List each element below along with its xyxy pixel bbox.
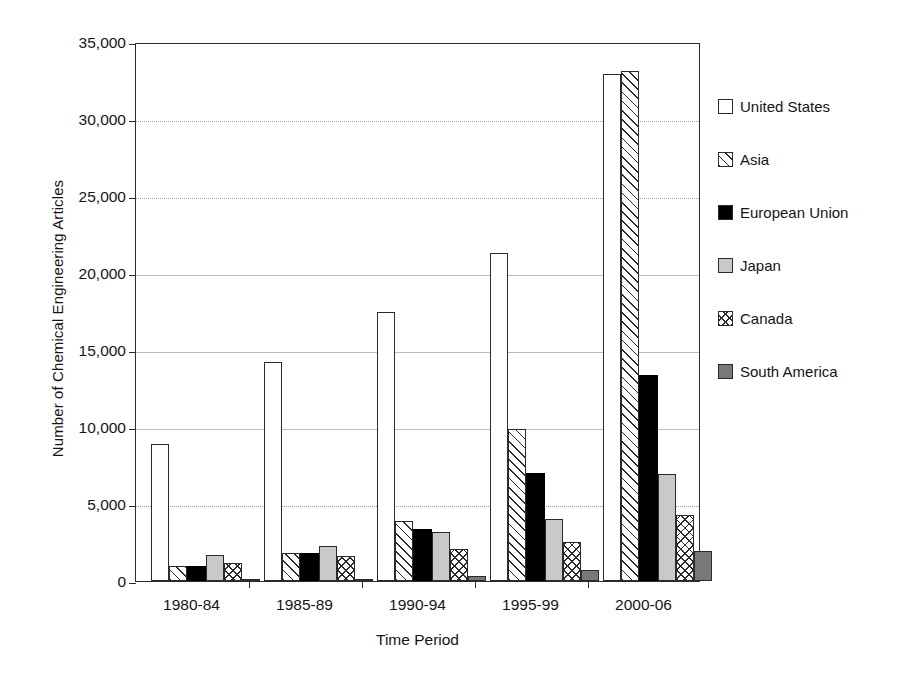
legend-item-european-union: European Union	[718, 204, 893, 221]
x-axis-title: Time Period	[135, 631, 700, 649]
solid-black-swatch	[718, 205, 733, 220]
y-axis-tick-label: 10,000	[48, 419, 126, 437]
bar-south-america-1985-89	[355, 579, 373, 581]
legend-label: South America	[740, 363, 838, 380]
legend-item-united-states: United States	[718, 98, 893, 115]
bar-european-union-1995-99	[526, 473, 544, 581]
bar-canada-2000-06	[676, 515, 694, 581]
bar-japan-1995-99	[545, 519, 563, 581]
white-square-swatch	[718, 99, 733, 114]
y-axis-tick-label: 5,000	[48, 496, 126, 514]
bar-asia-1990-94	[395, 521, 413, 581]
bar-japan-1990-94	[432, 532, 450, 581]
bar-european-union-1985-89	[300, 553, 318, 581]
bar-united-states-2000-06	[603, 74, 621, 581]
bar-japan-1980-84	[206, 555, 224, 581]
y-axis-tick-mark	[129, 44, 136, 45]
y-axis-tick-label: 20,000	[48, 265, 126, 283]
x-axis-tick-mark	[249, 581, 250, 588]
bar-south-america-1995-99	[581, 570, 599, 581]
bar-european-union-1990-94	[413, 529, 431, 581]
bar-south-america-1980-84	[242, 579, 260, 581]
bar-european-union-1980-84	[187, 566, 205, 581]
bar-japan-2000-06	[658, 474, 676, 581]
bar-united-states-1985-89	[264, 362, 282, 581]
legend-item-japan: Japan	[718, 257, 893, 274]
y-axis-tick-label: 25,000	[48, 188, 126, 206]
legend-label: Asia	[740, 151, 769, 168]
y-axis-tick-mark	[129, 121, 136, 122]
bar-united-states-1995-99	[490, 253, 508, 581]
dark-gray-swatch	[718, 364, 733, 379]
legend-label: Canada	[740, 310, 793, 327]
bar-japan-1985-89	[319, 546, 337, 581]
bar-canada-1995-99	[563, 542, 581, 581]
y-axis-tick-mark	[129, 506, 136, 507]
legend-item-south-america: South America	[718, 363, 893, 380]
chart-legend: United StatesAsiaEuropean UnionJapanCana…	[718, 98, 893, 416]
x-axis-tick-label: 2000-06	[579, 596, 709, 614]
bar-united-states-1990-94	[377, 312, 395, 582]
bar-canada-1980-84	[224, 563, 242, 581]
bar-asia-2000-06	[621, 71, 639, 581]
y-axis-tick-label: 35,000	[48, 34, 126, 52]
y-axis-tick-mark	[129, 352, 136, 353]
bar-asia-1985-89	[282, 553, 300, 581]
x-axis-tick-label: 1995-99	[466, 596, 596, 614]
bar-canada-1985-89	[337, 556, 355, 581]
y-axis-tick-label: 0	[48, 573, 126, 591]
x-axis-tick-label: 1980-84	[127, 596, 257, 614]
bar-chart: Number of Chemical Engineering Articles …	[0, 0, 900, 677]
legend-label: European Union	[740, 204, 848, 221]
x-axis-tick-mark	[362, 581, 363, 588]
bar-asia-1995-99	[508, 429, 526, 581]
legend-item-asia: Asia	[718, 151, 893, 168]
y-axis-tick-label: 15,000	[48, 342, 126, 360]
bar-south-america-2000-06	[694, 551, 712, 581]
diagonal-hatch-swatch	[718, 152, 733, 167]
y-axis-tick-mark	[129, 583, 136, 584]
cross-hatch-swatch	[718, 311, 733, 326]
legend-label: Japan	[740, 257, 781, 274]
bar-south-america-1990-94	[468, 576, 486, 581]
x-axis-tick-label: 1990-94	[353, 596, 483, 614]
y-axis-tick-mark	[129, 429, 136, 430]
bar-european-union-2000-06	[639, 375, 657, 581]
x-axis-tick-mark	[475, 581, 476, 588]
y-axis-tick-label: 30,000	[48, 111, 126, 129]
y-axis-tick-mark	[129, 275, 136, 276]
bar-asia-1980-84	[169, 566, 187, 581]
x-axis-tick-label: 1985-89	[240, 596, 370, 614]
legend-item-canada: Canada	[718, 310, 893, 327]
y-axis-tick-labels: 05,00010,00015,00020,00025,00030,00035,0…	[48, 0, 126, 677]
bar-canada-1990-94	[450, 549, 468, 581]
plot-area	[135, 43, 700, 582]
bar-united-states-1980-84	[151, 444, 169, 581]
y-axis-tick-mark	[129, 198, 136, 199]
legend-label: United States	[740, 98, 830, 115]
x-axis-tick-mark	[588, 581, 589, 588]
light-gray-swatch	[718, 258, 733, 273]
